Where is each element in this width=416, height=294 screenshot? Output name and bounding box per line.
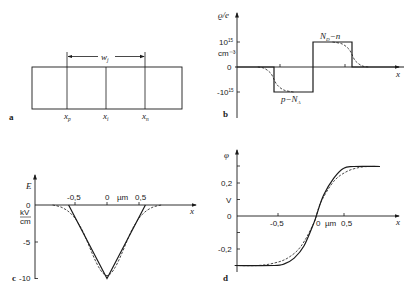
x-tick-label-d-neg05: -0,5 (270, 219, 284, 228)
junction-rectangle (32, 67, 182, 109)
annotation-p-na: p−NA (280, 94, 302, 105)
panel-label-d: d (223, 273, 228, 283)
x-tick-label-d-05: 0,5 (341, 219, 353, 228)
x-unit-c: µm (117, 193, 129, 202)
y-unit-c-den: cm (20, 217, 31, 226)
y-label-c: E (25, 181, 32, 191)
x-tick-label-d-0: 0 (316, 219, 321, 228)
y-tick-label-d-02: 0,2 (221, 179, 233, 188)
y-tick-label-b-pos: 1015 (219, 38, 233, 47)
panel-label-a: a (9, 112, 14, 122)
y-unit-d: V (226, 196, 232, 205)
series-c-smooth (53, 205, 162, 276)
y-label-b: ϱ/e (218, 10, 229, 20)
panel-a: wj xp xi xn a (9, 52, 182, 123)
figure: wj xp xi xn a ϱ/e 1015 cm⁻³ 0 -1015 x ND… (0, 0, 416, 294)
x-tick-label-c-0: 0 (105, 193, 110, 202)
marker-label-xn: xn (141, 111, 149, 122)
series-b-smooth-left (258, 67, 294, 92)
series-c-abrupt (69, 205, 146, 279)
x-label-d: x (395, 217, 400, 227)
panel-c: E 0 kV cm -5 -10 -0,5 0 µm 0,5 x c (12, 175, 196, 283)
panel-label-c: c (12, 273, 16, 283)
width-label: wj (101, 52, 109, 63)
series-b-smooth-right (333, 42, 369, 67)
y-unit-b: cm⁻³ (218, 49, 236, 58)
annotation-nd-n: ND−n (319, 31, 341, 42)
y-tick-label-c-neg5: -5 (23, 238, 31, 247)
y-tick-label-c-neg10: -10 (19, 274, 31, 283)
x-tick-label-c-05: 0,5 (135, 193, 147, 202)
panel-d: φ 0,2 V 0 -0,2 -0,5 0 µm 0,5 x d (218, 150, 400, 283)
y-unit-c-num: kV (20, 208, 30, 217)
y-tick-label-b-neg: -1015 (217, 88, 234, 97)
y-tick-label-d-neg02: -0,2 (218, 245, 232, 254)
x-tick-label-c-neg05: -0,5 (67, 193, 81, 202)
y-label-d: φ (224, 150, 229, 160)
marker-label-xp: xp (63, 111, 71, 122)
x-unit-d: µm (325, 219, 337, 228)
y-tick-label-d-0: 0 (227, 212, 232, 221)
marker-label-xi: xi (102, 111, 109, 122)
y-tick-label-b-zero: 0 (227, 63, 232, 72)
x-label-c: x (189, 206, 194, 216)
panel-b: ϱ/e 1015 cm⁻³ 0 -1015 x ND−n p−NA b (217, 10, 404, 119)
x-label-b: x (395, 69, 400, 79)
panel-label-b: b (223, 109, 228, 119)
